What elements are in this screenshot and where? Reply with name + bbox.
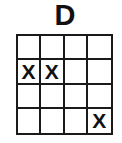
grid-cell-r4-c2[interactable] — [41, 109, 64, 133]
grid-cell-r2-c1[interactable]: X — [18, 60, 41, 84]
grid-cell-r4-c1[interactable] — [18, 109, 41, 133]
grid-cell-r2-c2[interactable]: X — [41, 60, 64, 84]
grid-cell-r1-c3[interactable] — [65, 36, 88, 60]
puzzle-label: D — [0, 0, 122, 30]
grid-cell-r2-c3[interactable] — [65, 60, 88, 84]
grid-cell-r2-c4[interactable] — [88, 60, 111, 84]
grid-cell-r4-c3[interactable] — [65, 109, 88, 133]
grid-cell-r3-c2[interactable] — [41, 85, 64, 109]
grid-cell-r3-c1[interactable] — [18, 85, 41, 109]
grid-cell-r1-c2[interactable] — [41, 36, 64, 60]
grid-cell-r1-c1[interactable] — [18, 36, 41, 60]
grid-cell-r1-c4[interactable] — [88, 36, 111, 60]
grid-cell-r3-c3[interactable] — [65, 85, 88, 109]
grid-cell-r4-c4[interactable]: X — [88, 109, 111, 133]
grid-cell-r3-c4[interactable] — [88, 85, 111, 109]
game-grid: X X X — [16, 34, 113, 135]
